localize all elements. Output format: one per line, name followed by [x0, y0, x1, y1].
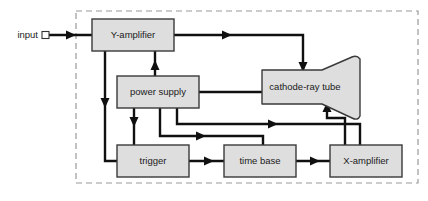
input-terminal-square-icon: [42, 32, 49, 39]
block-power-supply-label: power supply: [130, 86, 186, 97]
block-trigger-label: trigger: [140, 155, 167, 166]
wire-time-base-to-x-amplifier: [296, 157, 330, 166]
wire-power-supply-to-time-base: [160, 108, 263, 145]
block-y-amplifier[interactable]: Y-amplifier: [92, 19, 174, 51]
input-terminal: input: [17, 29, 49, 40]
schematic-canvas: input Y-amplifier power supply cathode-r…: [0, 0, 428, 201]
block-x-amplifier-label: X-amplifier: [343, 155, 388, 166]
block-trigger[interactable]: trigger: [117, 145, 189, 177]
wire-power-supply-to-x-amplifier: [177, 108, 360, 145]
block-cathode-ray-tube[interactable]: cathode-ray tube: [262, 56, 360, 119]
wire-trigger-to-time-base: [189, 157, 224, 166]
wire-power-supply-to-trigger: [130, 108, 139, 145]
wire-y-amplifier-to-trigger: [101, 51, 118, 161]
arrowhead-power-to-trigger: [130, 117, 139, 127]
block-time-base[interactable]: time base: [224, 145, 296, 177]
block-x-amplifier[interactable]: X-amplifier: [330, 145, 402, 177]
block-power-supply[interactable]: power supply: [117, 76, 199, 108]
block-y-amplifier-label: Y-amplifier: [111, 29, 156, 40]
oscilloscope-block-diagram: input Y-amplifier power supply cathode-r…: [0, 0, 428, 201]
arrowhead-y-to-trigger: [101, 98, 110, 108]
arrowhead-trigger-to-time-base: [204, 157, 214, 166]
wire-power-supply-to-y-amplifier: [151, 51, 160, 76]
input-label: input: [17, 29, 38, 40]
arrowhead-input: [66, 31, 76, 40]
wire-y-amplifier-to-crt: [174, 31, 308, 73]
block-time-base-label: time base: [239, 155, 280, 166]
arrowhead-power-to-x: [268, 120, 278, 129]
arrowhead-power-to-y: [151, 60, 160, 70]
wire-input-to-y-amplifier: [49, 31, 92, 40]
arrowhead-time-base-to-x: [310, 157, 320, 166]
arrowhead-power-to-time-base: [196, 132, 206, 141]
block-cathode-ray-tube-label: cathode-ray tube: [269, 81, 340, 92]
arrowhead-y-to-crt-horizontal: [222, 31, 232, 40]
